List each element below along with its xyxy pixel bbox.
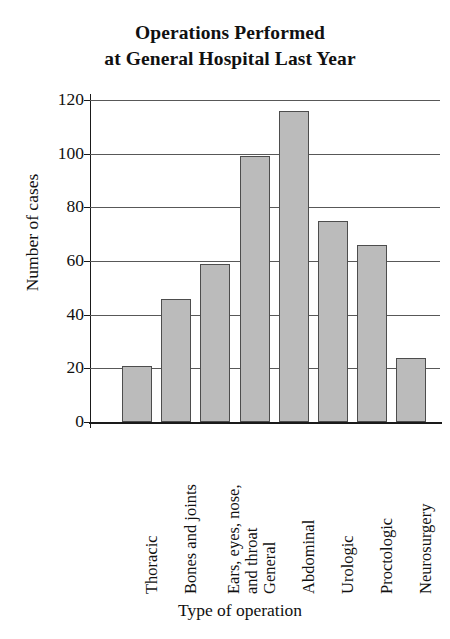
x-axis-category-label-line: General [261,424,279,594]
y-axis-tick-labels: 020406080100120 [44,100,84,422]
chart-title-line-1: Operations Performed [30,20,430,46]
x-axis-category-labels: ThoracicBones and jointsEars, eyes, nose… [90,424,440,599]
x-axis-category-label: Bones and joints [182,424,200,594]
y-axis-tick [84,261,90,262]
x-axis-category-label: Abdominal [300,424,318,594]
gridline [90,154,440,155]
bar-thoracic [122,366,152,422]
x-axis-category-label: Urologic [339,424,357,594]
bar-ears-eyes-nose-and-throat [200,264,230,422]
y-axis-tick [84,368,90,369]
bar-chart-figure: Operations Performed at General Hospital… [0,0,450,639]
x-axis-category-label-line: and throat [243,424,261,594]
y-axis-title: Number of cases [22,123,43,343]
y-axis-tick-label: 100 [44,145,84,163]
y-axis-tick-label: 20 [44,360,84,378]
x-axis-category-label-line: Urologic [339,424,357,594]
x-axis-category-label-line: Bones and joints [182,424,200,594]
bar-abdominal [279,111,309,422]
chart-title-line-2: at General Hospital Last Year [30,46,430,72]
y-axis-tick [84,422,90,423]
x-axis-category-label-line: Proctologic [378,424,396,594]
x-axis-category-label-line: Abdominal [300,424,318,594]
y-axis-tick [84,154,90,155]
x-axis-category-label: General [261,424,279,594]
x-axis-category-label: Ears, eyes, nose,and throat [225,424,261,594]
chart-title: Operations Performed at General Hospital… [30,20,430,71]
y-axis-tick-label: 80 [44,199,84,217]
x-axis-category-label-line: Thoracic [143,424,161,594]
y-axis-tick [84,315,90,316]
bar-urologic [318,221,348,422]
y-axis-tick [84,207,90,208]
y-axis-tick-label: 0 [44,413,84,431]
plot-area [90,100,440,422]
x-axis-category-label: Neurosurgery [417,424,435,594]
bar-proctologic [357,245,387,422]
bar-bones-and-joints [161,299,191,422]
gridline [90,100,440,101]
y-axis-tick-label: 60 [44,252,84,270]
y-axis-tick [84,100,90,101]
bar-general [240,156,270,422]
x-axis-category-label-line: Ears, eyes, nose, [225,424,243,594]
bar-neurosurgery [396,358,426,422]
x-axis-category-label: Thoracic [143,424,161,594]
y-axis-tick-label: 120 [44,91,84,109]
x-axis-title: Type of operation [60,600,420,621]
y-axis-tick-label: 40 [44,306,84,324]
x-axis-category-label: Proctologic [378,424,396,594]
x-axis-category-label-line: Neurosurgery [417,424,435,594]
